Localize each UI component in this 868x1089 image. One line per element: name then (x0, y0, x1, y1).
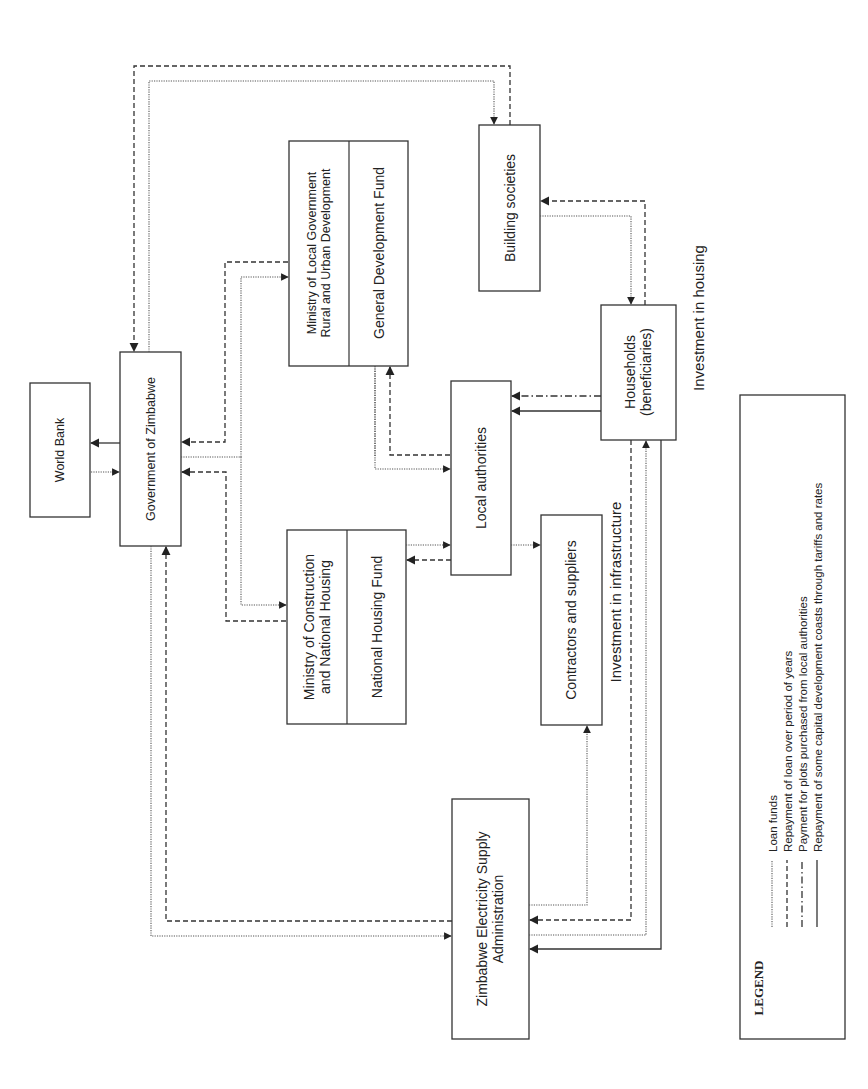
node-ministry-construction: Ministry of Construction and National Ho… (301, 554, 333, 700)
zesa-line2: Administration (490, 831, 506, 1006)
node-government: Government of Zimbabwe (144, 377, 158, 521)
edge-gov-mcnh (241, 457, 286, 605)
legend-item-payment-plots: Payment for plots purchased from local a… (797, 596, 809, 852)
legend-item-repayment-loan: Repayment of loan over period of years (782, 651, 794, 852)
households-line1: Households (622, 328, 638, 416)
edge-mcnh-gov (182, 472, 286, 621)
edge-la-gdf (390, 367, 450, 455)
edge-gov-mlg (181, 277, 288, 457)
flow-diagram (0, 0, 868, 1089)
node-world-bank: World Bank (53, 418, 67, 482)
edge-gdf-la (375, 366, 450, 469)
node-households: Households (beneficiaries) (622, 328, 654, 416)
legend-item-loan-funds: Loan funds (767, 795, 779, 852)
zesa-line1: Zimbabwe Electricity Supply (474, 831, 490, 1006)
annotation-investment-housing: Investment in housing (692, 245, 706, 391)
ministry-local-gov-line2: Rural and Urban Development (319, 169, 333, 338)
legend-item-repayment-tariffs: Repayment of some capital development co… (812, 483, 824, 852)
node-national-housing-fund: National Housing Fund (369, 556, 385, 698)
ministry-construction-line2: and National Housing (317, 554, 333, 700)
households-line2: (beneficiaries) (638, 328, 654, 416)
annotation-investment-infrastructure: Investment in infrastructure (609, 502, 623, 683)
node-contractors: Contractors and suppliers (563, 540, 579, 700)
edge-mlg-gov (182, 262, 288, 442)
ministry-construction-line1: Ministry of Construction (301, 554, 317, 700)
node-zesa: Zimbabwe Electricity Supply Administrati… (474, 831, 506, 1006)
edge-zesa-contractors (529, 726, 587, 905)
legend-title: LEGEND (752, 961, 766, 1016)
node-ministry-local-gov: Ministry of Local Government Rural and U… (305, 169, 333, 338)
node-building-societies: Building societies (502, 154, 518, 262)
edge-households-building (541, 201, 645, 305)
node-general-development-fund: General Development Fund (371, 167, 387, 339)
node-local-authorities: Local authorities (473, 427, 489, 529)
edge-building-households (540, 216, 631, 304)
ministry-local-gov-line1: Ministry of Local Government (305, 169, 319, 338)
